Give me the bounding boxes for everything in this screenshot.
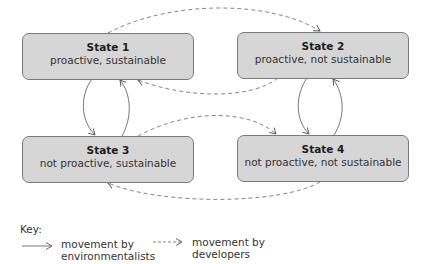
state-3-title: State 3	[23, 144, 193, 157]
arrow-state1-to-state3	[83, 79, 95, 135]
state-1-title: State 1	[23, 41, 193, 54]
state-3-box: State 3 not proactive, sustainable	[22, 136, 194, 183]
key-dashed-text: movement by developers	[192, 236, 265, 260]
arrow-state2-to-state4	[298, 78, 309, 134]
arrow-state2-to-state1	[138, 78, 278, 94]
state-2-title: State 2	[238, 40, 408, 53]
arrow-state3-to-state1	[120, 80, 129, 136]
arrow-state3-to-state4	[138, 116, 276, 137]
key-solid-text: movement by environmentalists	[61, 238, 155, 262]
key-solid-line2: environmentalists	[61, 250, 155, 262]
state-4-subtitle: not proactive, not sustainable	[238, 156, 408, 169]
key-dashed-line2: developers	[192, 248, 265, 260]
arrow-state1-to-state2	[108, 8, 320, 33]
key-solid-line1: movement by	[61, 238, 155, 250]
key-label: Key:	[20, 223, 42, 235]
state-2-subtitle: proactive, not sustainable	[238, 53, 408, 66]
state-3-subtitle: not proactive, sustainable	[23, 157, 193, 170]
state-1-subtitle: proactive, sustainable	[23, 54, 193, 67]
state-4-title: State 4	[238, 143, 408, 156]
state-4-box: State 4 not proactive, not sustainable	[237, 135, 409, 182]
state-1-box: State 1 proactive, sustainable	[22, 33, 194, 80]
arrow-state4-to-state2	[333, 79, 342, 135]
arrow-state4-to-state3	[108, 182, 320, 199]
key-dashed-line1: movement by	[192, 236, 265, 248]
state-2-box: State 2 proactive, not sustainable	[237, 32, 409, 79]
